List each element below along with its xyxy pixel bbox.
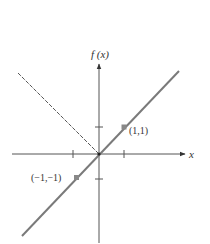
origin-point: [97, 152, 100, 155]
point-label-1-1: (1,1): [129, 125, 148, 137]
point-marker-1-1: [122, 125, 127, 130]
point-label-neg1-neg1: (−1,−1): [31, 172, 61, 184]
y-axis-label: f (x): [91, 48, 109, 61]
point-marker-neg1-neg1: [74, 175, 79, 180]
graph-canvas: f (x) x (1,1) (−1,−1): [0, 0, 210, 244]
function-graph: f (x) x (1,1) (−1,−1): [0, 0, 210, 244]
x-axis-label: x: [188, 148, 194, 160]
dashed-line-negative-x: [18, 73, 99, 154]
